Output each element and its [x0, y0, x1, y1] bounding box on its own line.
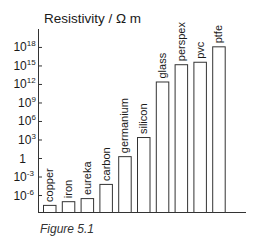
bar-label-eureka: eureka	[81, 161, 93, 196]
y-tick-exponent: 12	[27, 76, 36, 85]
y-tick-label: 10	[13, 40, 27, 54]
bar-glass	[156, 82, 169, 213]
y-tick-label: 10	[18, 96, 32, 110]
y-tick-exponent: 6	[31, 113, 36, 122]
resistivity-bar-chart: Resistivity / Ω m 1018101510121091061031…	[0, 0, 261, 239]
bar-label-perspex: perspex	[175, 22, 187, 62]
y-tick-label: 10	[13, 77, 27, 91]
y-tick-label: 10	[13, 170, 27, 184]
bar-label-glass: glass	[156, 52, 168, 78]
bar-carbon	[100, 184, 113, 212]
y-tick-exponent: 15	[27, 58, 36, 67]
figure-caption: Figure 5.1	[40, 222, 94, 236]
bar-label-copper: copper	[43, 168, 55, 202]
bar-label-carbon: carbon	[100, 147, 112, 181]
bar-label-iron: iron	[62, 180, 74, 198]
y-tick-exponent: -6	[27, 188, 35, 197]
bar-eureka	[81, 199, 94, 213]
y-tick-exponent: 9	[31, 95, 36, 104]
y-tick-label: 10	[18, 114, 32, 128]
y-tick-label: 10	[13, 189, 27, 203]
bar-ptfe	[213, 47, 226, 213]
bar-iron	[62, 202, 75, 213]
bar-silicon	[138, 138, 151, 213]
bar-label-silicon: silicon	[137, 103, 149, 134]
y-tick-exponent: -3	[27, 169, 35, 178]
y-axis-ticks: 101810151012109106103110-310-6	[13, 39, 42, 202]
y-tick-exponent: 18	[27, 39, 36, 48]
bar-label-pvc: pvc	[194, 41, 206, 59]
y-tick-label: 10	[13, 59, 27, 73]
bar-germanium	[119, 157, 132, 213]
bar-copper	[44, 205, 57, 212]
y-tick-label: 10	[18, 133, 32, 147]
bar-label-germanium: germanium	[118, 98, 130, 153]
chart-title: Resistivity / Ω m	[44, 11, 141, 26]
y-tick-exponent: 3	[31, 132, 36, 141]
bars: copperironeurekacarbongermaniumsilicongl…	[43, 22, 225, 213]
y-tick-label: 1	[19, 152, 26, 166]
bar-label-ptfe: ptfe	[212, 25, 224, 43]
bar-pvc	[194, 62, 207, 212]
bar-perspex	[175, 65, 188, 213]
